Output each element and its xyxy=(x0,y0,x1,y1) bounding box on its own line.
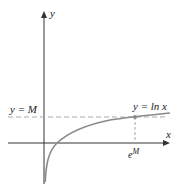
ln-graph: y x y = M y = ln x eM xyxy=(0,0,175,187)
intersection-point xyxy=(133,115,137,119)
curve-label: y = ln x xyxy=(132,100,167,112)
y-axis-label: y xyxy=(49,7,55,19)
ln-curve xyxy=(45,113,170,182)
hline-label: y = M xyxy=(9,103,38,115)
y-axis-arrow-icon xyxy=(41,11,47,18)
xtick-e-label: eM xyxy=(128,147,140,160)
x-axis-arrow-icon xyxy=(163,140,170,146)
x-axis-label: x xyxy=(165,128,171,140)
